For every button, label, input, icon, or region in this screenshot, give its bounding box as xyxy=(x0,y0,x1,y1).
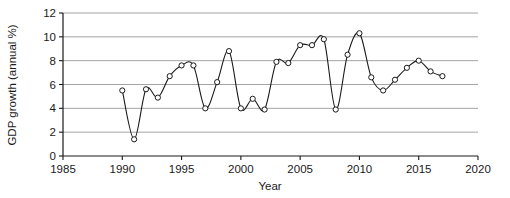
data-point-marker xyxy=(321,37,326,42)
data-point-marker xyxy=(416,58,421,63)
data-point-marker xyxy=(226,49,231,54)
data-point-markers-group xyxy=(120,31,445,142)
data-point-marker xyxy=(404,65,409,70)
data-point-marker xyxy=(155,95,160,100)
data-point-marker xyxy=(179,63,184,68)
data-point-marker xyxy=(250,96,255,101)
x-axis-tick-label: 1985 xyxy=(50,163,76,175)
data-point-marker xyxy=(286,60,291,65)
x-axis-tick-label: 1990 xyxy=(109,163,135,175)
x-axis-ticks-group: 19851990199520002005201020152020 xyxy=(50,156,491,175)
data-point-marker xyxy=(428,69,433,74)
x-axis-tick-label: 2015 xyxy=(406,163,432,175)
y-axis-ticks-group: 024681012 xyxy=(43,7,63,162)
y-axis-tick-label: 0 xyxy=(50,150,56,162)
data-point-marker xyxy=(345,52,350,57)
y-axis-tick-label: 4 xyxy=(50,102,57,114)
x-axis-tick-label: 2010 xyxy=(347,163,373,175)
data-point-marker xyxy=(309,43,314,48)
x-axis-tick-label: 2000 xyxy=(228,163,254,175)
x-axis-tick-label: 2005 xyxy=(287,163,313,175)
data-point-marker xyxy=(238,106,243,111)
data-point-marker xyxy=(191,63,196,68)
y-axis-title: GDP growth (annual %) xyxy=(6,24,18,145)
data-point-marker xyxy=(167,74,172,79)
data-point-marker xyxy=(440,74,445,79)
data-point-marker xyxy=(369,75,374,80)
y-axis-tick-label: 10 xyxy=(43,31,56,43)
data-point-marker xyxy=(357,31,362,36)
gridlines-group xyxy=(63,13,478,132)
x-axis-tick-label: 1995 xyxy=(169,163,195,175)
data-point-marker xyxy=(143,87,148,92)
y-axis-tick-label: 6 xyxy=(50,79,56,91)
x-axis-title: Year xyxy=(258,180,281,192)
x-axis-tick-label: 2020 xyxy=(465,163,491,175)
data-series-line xyxy=(122,33,442,140)
gdp-growth-line-chart: 024681012 198519901995200020052010201520… xyxy=(0,0,510,198)
data-point-marker xyxy=(298,43,303,48)
data-point-marker xyxy=(381,88,386,93)
y-axis-tick-label: 8 xyxy=(50,55,56,67)
data-point-marker xyxy=(333,107,338,112)
y-axis-tick-label: 2 xyxy=(50,126,56,138)
data-point-marker xyxy=(203,106,208,111)
data-point-marker xyxy=(262,107,267,112)
data-point-marker xyxy=(392,77,397,82)
data-point-marker xyxy=(120,88,125,93)
chart-canvas: 024681012 198519901995200020052010201520… xyxy=(0,0,510,198)
data-point-marker xyxy=(274,59,279,64)
y-axis-tick-label: 12 xyxy=(43,7,56,19)
data-point-marker xyxy=(215,80,220,85)
data-point-marker xyxy=(132,137,137,142)
